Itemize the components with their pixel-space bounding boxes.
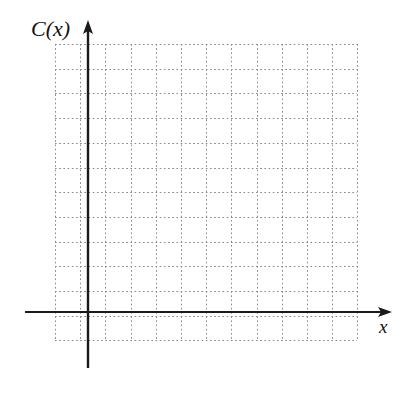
- grid-line-horizontal: [55, 93, 357, 94]
- dotted-grid: [55, 44, 357, 340]
- grid-line-horizontal: [55, 44, 357, 45]
- grid-line-horizontal: [55, 266, 357, 267]
- grid-line-horizontal: [55, 143, 357, 144]
- y-axis-arrowhead: [83, 20, 93, 34]
- grid-line-horizontal: [55, 316, 357, 317]
- grid-line-horizontal: [55, 217, 357, 218]
- y-axis-label: C(x): [31, 18, 70, 40]
- grid-line-horizontal: [55, 168, 357, 169]
- grid-line-horizontal: [55, 242, 357, 243]
- grid-line-vertical: [357, 44, 358, 340]
- grid-line-horizontal: [55, 118, 357, 119]
- x-axis-label: x: [379, 317, 387, 336]
- grid-line-horizontal: [55, 291, 357, 292]
- coordinate-grid-figure: C(x) x: [0, 0, 414, 393]
- grid-line-horizontal: [55, 312, 357, 313]
- grid-line-horizontal: [55, 192, 357, 193]
- grid-line-horizontal: [55, 69, 357, 70]
- grid-line-horizontal: [55, 340, 357, 341]
